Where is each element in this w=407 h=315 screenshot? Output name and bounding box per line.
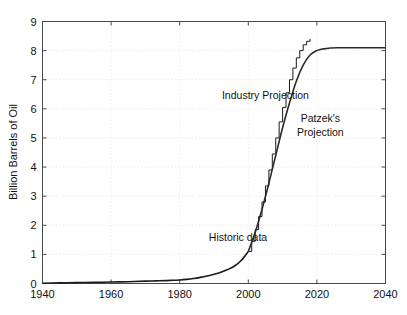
x-tick-label: 1940	[30, 288, 54, 300]
chart-annotation: Projection	[297, 126, 344, 138]
chart-annotation: Historic data	[209, 231, 268, 243]
x-tick-label: 2040	[373, 288, 397, 300]
chart-annotation: Industry Projection	[222, 89, 309, 101]
y-tick-label: 7	[30, 74, 36, 86]
chart-figure: 0123456789194019601980200020202040 Indus…	[0, 0, 407, 315]
y-tick-label: 4	[30, 161, 36, 173]
chart-annotation: Patzek's	[301, 112, 340, 124]
chart-canvas: 0123456789194019601980200020202040 Indus…	[0, 0, 407, 315]
y-tick-label: 5	[30, 132, 36, 144]
y-tick-label: 3	[30, 190, 36, 202]
y-tick-label: 2	[30, 219, 36, 231]
y-tick-label: 6	[30, 103, 36, 115]
x-tick-label: 2000	[236, 288, 260, 300]
x-tick-label: 2020	[305, 288, 329, 300]
y-tick-label: 8	[30, 45, 36, 57]
x-tick-label: 1960	[99, 288, 123, 300]
y-tick-label: 1	[30, 248, 36, 260]
x-tick-label: 1980	[167, 288, 191, 300]
y-tick-label: 9	[30, 16, 36, 28]
y-axis-title: Billion Barrels of Oil	[7, 104, 19, 200]
